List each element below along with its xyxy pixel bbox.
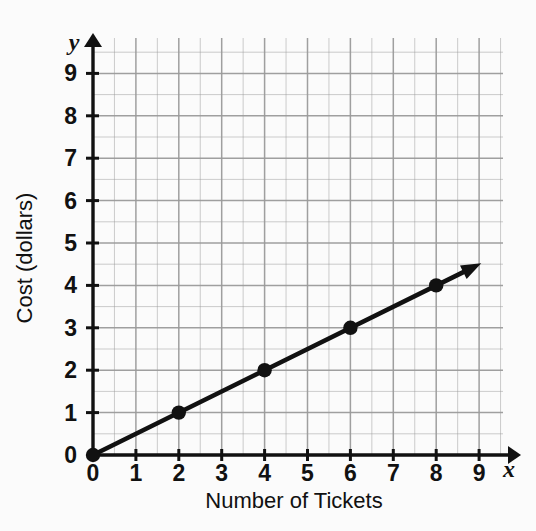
y-tick-label: 8	[64, 103, 77, 129]
coordinate-graph: 0123456789 0123456789 y x Number of Tick…	[0, 0, 536, 531]
x-tick-label: 5	[301, 460, 314, 486]
y-tick-label: 2	[64, 357, 77, 383]
x-tick-label: 8	[430, 460, 443, 486]
y-tick-label: 7	[64, 145, 77, 171]
data-point	[172, 405, 186, 419]
y-tick-label: 0	[64, 442, 77, 468]
x-axis-variable-label: x	[502, 456, 515, 482]
y-tick-label: 5	[64, 230, 77, 256]
y-axis-title: Cost (dollars)	[12, 193, 37, 324]
x-tick-label: 9	[473, 460, 486, 486]
data-point	[429, 278, 443, 292]
y-tick-label: 6	[64, 188, 77, 214]
y-tick-label: 3	[64, 315, 77, 341]
page-background	[0, 0, 536, 531]
x-tick-label: 6	[344, 460, 357, 486]
x-tick-label: 7	[387, 460, 400, 486]
graph-page: 0123456789 0123456789 y x Number of Tick…	[0, 0, 536, 531]
y-tick-label: 9	[64, 60, 77, 86]
data-point	[257, 363, 271, 377]
x-axis-title: Number of Tickets	[205, 488, 382, 513]
x-tick-label: 3	[215, 460, 228, 486]
x-tick-label: 4	[258, 460, 271, 486]
y-axis-variable-label: y	[66, 29, 80, 55]
x-tick-label: 2	[172, 460, 185, 486]
y-tick-label: 4	[64, 272, 77, 298]
x-tick-label: 0	[87, 460, 100, 486]
y-tick-label: 1	[64, 400, 77, 426]
x-tick-label: 1	[130, 460, 143, 486]
data-point	[343, 321, 357, 335]
